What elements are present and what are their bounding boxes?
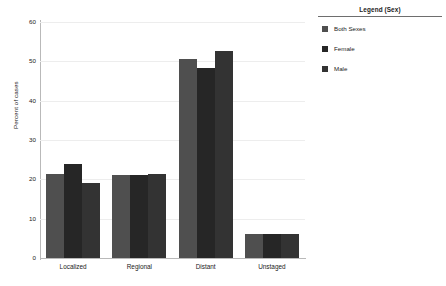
y-axis-tick-label: 20	[6, 176, 36, 182]
legend-items: Both SexesFemaleMale	[318, 24, 442, 73]
bar[interactable]	[179, 59, 197, 258]
y-axis-tick-label: 0	[6, 255, 36, 261]
y-axis-tick-label: 40	[6, 98, 36, 104]
x-axis-tick-label: Unstaged	[239, 263, 305, 271]
bar[interactable]	[148, 174, 166, 258]
y-axis-tick-label: 30	[6, 137, 36, 143]
legend: Legend (Sex) Both SexesFemaleMale	[318, 6, 442, 84]
legend-divider	[318, 16, 442, 17]
bar[interactable]	[197, 68, 215, 258]
y-axis-tick-labels: 0102030405060	[4, 22, 36, 258]
x-axis-tick-label: Distant	[173, 263, 239, 271]
bar-group	[106, 22, 172, 258]
bar[interactable]	[82, 183, 100, 258]
bar[interactable]	[64, 164, 82, 258]
bar[interactable]	[263, 234, 281, 258]
bar-chart: Percent of cases 0102030405060 Localized…	[0, 0, 310, 286]
legend-swatch-icon	[322, 66, 328, 72]
bar[interactable]	[46, 174, 64, 258]
y-axis-tick-label: 10	[6, 216, 36, 222]
legend-item-label: Both Sexes	[334, 25, 366, 32]
bar-group	[239, 22, 305, 258]
legend-title: Legend (Sex)	[318, 6, 442, 16]
legend-swatch-icon	[322, 46, 328, 52]
chart-page: Percent of cases 0102030405060 Localized…	[0, 0, 446, 286]
y-axis-tick-label: 60	[6, 19, 36, 25]
legend-item[interactable]: Male	[318, 64, 442, 73]
bar[interactable]	[130, 175, 148, 258]
y-axis-tick-label: 50	[6, 58, 36, 64]
legend-item[interactable]: Female	[318, 44, 442, 53]
x-axis-line	[40, 258, 306, 259]
plot-area	[40, 22, 305, 258]
bar[interactable]	[215, 51, 233, 258]
bar[interactable]	[245, 234, 263, 258]
bar-group	[40, 22, 106, 258]
bar-group	[173, 22, 239, 258]
legend-item[interactable]: Both Sexes	[318, 24, 442, 33]
bar[interactable]	[281, 234, 299, 258]
bar[interactable]	[112, 175, 130, 258]
x-axis-tick-label: Regional	[106, 263, 172, 271]
legend-item-label: Male	[334, 65, 347, 72]
x-axis-tick-label: Localized	[40, 263, 106, 271]
legend-item-label: Female	[334, 45, 355, 52]
legend-swatch-icon	[322, 26, 328, 32]
